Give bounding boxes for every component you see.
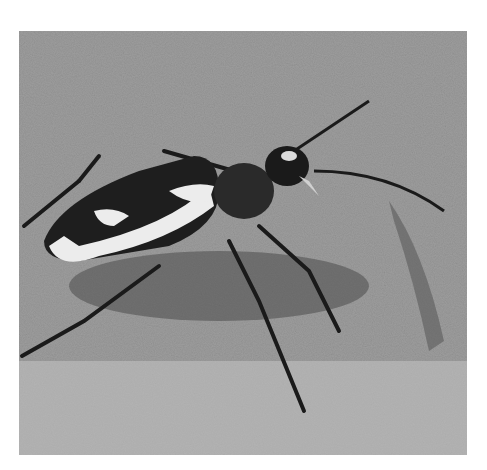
photograph [19, 31, 467, 455]
thorax [214, 163, 274, 219]
beetle-illustration [19, 31, 467, 455]
